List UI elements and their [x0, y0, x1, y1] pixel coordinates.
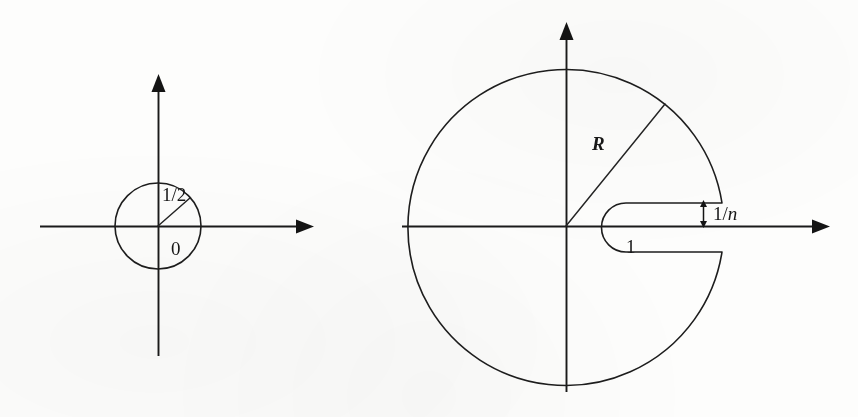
- figure-container: 1/2 0 R 1 1/n: [0, 0, 858, 417]
- right-x-axis-arrow-icon: [812, 220, 830, 234]
- right-radius-segment: [566, 104, 665, 226]
- right-branch-point-label: 1: [626, 236, 636, 257]
- left-x-axis-arrow-icon: [296, 220, 314, 234]
- left-origin-label: 0: [171, 238, 181, 259]
- left-panel-small-circle: 1/2 0: [40, 74, 314, 356]
- keyhole-contour-path: [408, 69, 722, 385]
- left-y-axis-arrow-icon: [152, 74, 166, 92]
- right-slot-width-label: 1/n: [713, 203, 737, 224]
- right-panel-keyhole-contour: R 1 1/n: [402, 22, 830, 392]
- right-y-axis-arrow-icon: [560, 22, 574, 40]
- slot-width-label-suffix: n: [728, 203, 738, 224]
- slot-width-label-prefix: 1/: [713, 203, 729, 224]
- left-radius-label: 1/2: [162, 184, 186, 205]
- right-outer-radius-label: R: [591, 133, 605, 154]
- contour-diagram-svg: 1/2 0 R 1 1/n: [0, 0, 858, 417]
